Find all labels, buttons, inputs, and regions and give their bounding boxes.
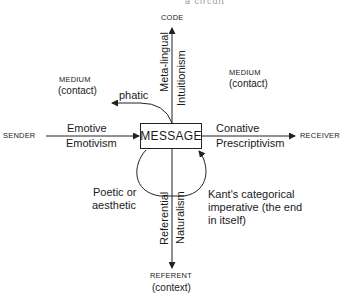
poetic-loop (137, 150, 172, 196)
phatic-label: phatic (119, 89, 148, 102)
poetic-label-1: Poetic or (93, 186, 136, 199)
kant-label-2: imperative (the end (208, 201, 302, 214)
code-label: CODE (161, 14, 183, 23)
kant-label-1: Kant's categorical (208, 188, 294, 201)
prescriptivism-label: Prescriptivism (216, 137, 284, 150)
phatic-curve (112, 103, 172, 123)
receiver-label: RECEIVER (300, 132, 340, 141)
diagram-lines (0, 0, 348, 307)
referent-label: REFERENT (150, 272, 192, 281)
sender-label: SENDER (3, 132, 35, 141)
emotivism-label: Emotivism (66, 137, 117, 150)
referential-label: Referential (158, 192, 170, 245)
medium-right-label: MEDIUM (229, 69, 261, 78)
message-box: MESSAGE (140, 123, 202, 149)
medium-left-label: MEDIUM (59, 76, 91, 85)
poetic-label-2: aesthetic (92, 199, 136, 212)
kant-label-3: in itself) (208, 214, 246, 227)
conative-label: Conative (216, 122, 259, 135)
metalingual-label: Meta-lingual (158, 32, 170, 92)
kant-loop (172, 151, 206, 196)
medium-right-contact: (contact) (229, 78, 268, 90)
emotive-label: Emotive (67, 122, 107, 135)
naturalism-label: Naturalism (174, 191, 186, 244)
context-label: (context) (152, 282, 191, 294)
medium-left-contact: (contact) (58, 85, 97, 97)
intuitionism-label: Intuitionism (175, 50, 187, 106)
